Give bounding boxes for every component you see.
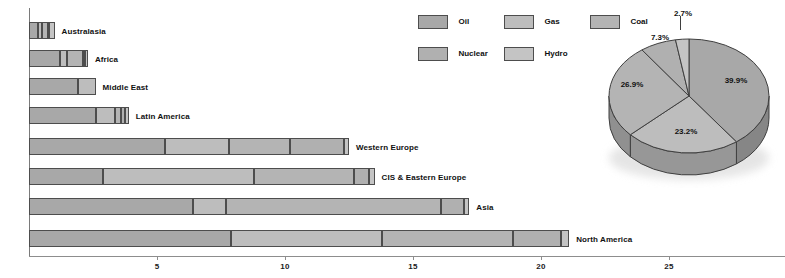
bar-segment-gas[interactable] [60,50,68,67]
pie-label-hydro: 2.7% [674,9,692,18]
bar-segment-oil[interactable] [29,168,103,185]
bar-segment-gas[interactable] [231,230,382,247]
bar-label: Latin America [136,111,190,120]
bar-segment-nuclear[interactable] [513,230,562,247]
bar-segment-coal[interactable] [382,230,513,247]
legend-swatch-oil [418,15,448,29]
bar-segment-gas[interactable] [103,168,254,185]
bar-segment-nuclear[interactable] [354,168,369,185]
x-tick-label: 5 [155,262,160,271]
bar-segment-hydro[interactable] [85,50,88,67]
legend-label-hydro: Hydro [544,49,567,58]
bar-segment-gas[interactable] [78,78,96,95]
legend-swatch-nuclear [418,47,448,61]
bar-segment-hydro[interactable] [49,22,54,39]
pie-chart: 2.7% 7.3% 26.9% 23.2% 39.9% [594,8,785,188]
x-tick-label: 10 [280,262,289,271]
bar-label: North America [576,234,632,243]
bar-segment-oil[interactable] [29,230,231,247]
x-tick [157,256,158,260]
bar-segment-oil[interactable] [29,22,38,39]
bar-segment-coal[interactable] [254,168,354,185]
bar-label: Western Europe [356,142,419,151]
y-axis-line [29,8,30,256]
bar-segment-gas[interactable] [165,138,229,155]
stacked-bar-chart: AustralasiaAfricaMiddle EastLatin Americ… [0,0,660,262]
pie-label-oil: 39.9% [725,76,748,85]
bar-segment-hydro[interactable] [464,198,469,215]
bar-segment-oil[interactable] [29,198,193,215]
legend-label-nuclear: Nuclear [458,49,487,58]
legend-label-oil: Oil [458,17,469,26]
pie-leader-hydro [680,16,681,30]
bar-segment-oil[interactable] [29,107,96,124]
x-tick [285,256,286,260]
x-tick [413,256,414,260]
bar-segment-coal[interactable] [67,50,82,67]
bar-label: CIS & Eastern Europe [382,172,467,181]
bar-segment-hydro[interactable] [369,168,374,185]
bar-segment-hydro[interactable] [125,107,129,124]
bar-segment-oil[interactable] [29,50,60,67]
x-axis-line [29,256,785,257]
bar-segment-nuclear[interactable] [290,138,344,155]
bar-segment-oil[interactable] [29,138,165,155]
x-tick-label: 25 [664,262,673,271]
legend-swatch-gas [504,15,534,29]
legend-swatch-hydro [504,47,534,61]
bar-segment-hydro[interactable] [561,230,569,247]
legend-label-gas: Gas [544,17,559,26]
bar-segment-nuclear[interactable] [441,198,464,215]
bar-segment-oil[interactable] [29,78,78,95]
bar-label: Australasia [62,26,106,35]
x-tick [541,256,542,260]
energy-consumption-figure: AustralasiaAfricaMiddle EastLatin Americ… [0,0,785,278]
pie-top-faces [609,39,769,153]
legend-item-nuclear[interactable]: Nuclear [418,44,488,62]
bar-segment-coal[interactable] [226,198,441,215]
bar-segment-gas[interactable] [193,198,226,215]
bar-segment-coal[interactable] [229,138,290,155]
pie-label-nuclear: 7.3% [651,33,669,42]
legend-item-oil[interactable]: Oil [418,12,469,30]
x-tick-label: 20 [536,262,545,271]
legend-item-hydro[interactable]: Hydro [504,44,568,62]
bar-segment-gas[interactable] [96,107,115,124]
x-tick [669,256,670,260]
pie-label-gas: 23.2% [675,127,698,136]
x-tick-label: 15 [408,262,417,271]
bar-label: Asia [476,202,493,211]
pie-label-coal: 26.9% [621,80,644,89]
pie-chart-svg [594,8,785,188]
bar-label: Africa [95,54,118,63]
bar-label: Middle East [103,82,149,91]
bar-segment-hydro[interactable] [344,138,349,155]
legend-item-gas[interactable]: Gas [504,12,560,30]
